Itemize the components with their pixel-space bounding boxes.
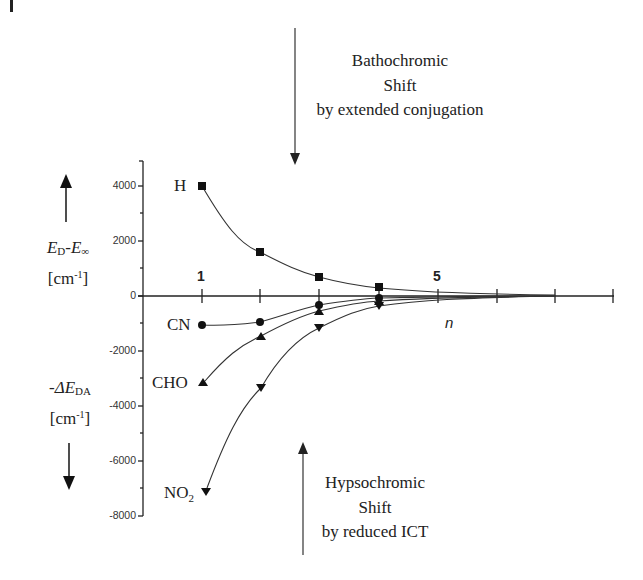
y-tick-4000: 4000 — [92, 179, 136, 191]
series-label-no2: NO2 — [164, 483, 194, 504]
series-label-cho: CHO — [152, 373, 188, 393]
hypsochromic-annotation: Hypsochromic Shift by reduced ICT — [305, 471, 445, 545]
hypsochromic-line-3: by reduced ICT — [305, 520, 445, 545]
bathochromic-arrow-icon — [290, 28, 300, 165]
hypsochromic-line-2: Shift — [305, 496, 445, 521]
x-axis-label: n — [445, 314, 453, 331]
bathochromic-annotation: Bathochromic Shift by extended conjugati… — [300, 49, 500, 123]
series-cho-markers — [198, 297, 384, 386]
down-arrow-icon — [63, 443, 75, 490]
bathochromic-line-2: Shift — [300, 74, 500, 99]
y-axis — [138, 161, 143, 516]
series-h-markers — [198, 182, 383, 291]
y-tick-0: 0 — [92, 289, 136, 301]
y-label-upper: ED-E∞ [cm-1] — [28, 236, 108, 290]
series-label-h: H — [174, 176, 186, 196]
up-arrow-icon — [60, 174, 72, 222]
y-tick-neg8000: -8000 — [92, 509, 136, 521]
bathochromic-line-1: Bathochromic — [300, 49, 500, 74]
x-tick-5: 5 — [433, 268, 441, 284]
y-tick-neg2000: -2000 — [92, 344, 136, 356]
bathochromic-line-3: by extended conjugation — [300, 98, 500, 123]
corner-mark — [10, 0, 13, 12]
hypsochromic-line-1: Hypsochromic — [305, 471, 445, 496]
x-tick-1: 1 — [197, 268, 205, 284]
y-label-lower: -ΔEDA [cm-1] — [30, 376, 110, 430]
series-no2-markers — [201, 302, 384, 496]
series-label-cn: CN — [167, 315, 191, 335]
y-tick-neg6000: -6000 — [92, 454, 136, 466]
series-h-curve — [202, 186, 555, 295]
